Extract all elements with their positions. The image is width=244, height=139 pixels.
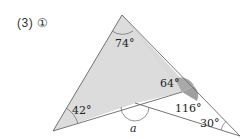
geometry-figure: 74° 42° 64° 116° 30° a: [0, 0, 244, 139]
angle-42-label: 42°: [72, 104, 92, 117]
angle-30-label: 30°: [200, 117, 220, 130]
angle-64-label: 64°: [160, 77, 180, 90]
angle-116-label: 116°: [175, 102, 202, 115]
angle-74-label: 74°: [115, 37, 135, 50]
angle-a-label: a: [130, 122, 137, 135]
